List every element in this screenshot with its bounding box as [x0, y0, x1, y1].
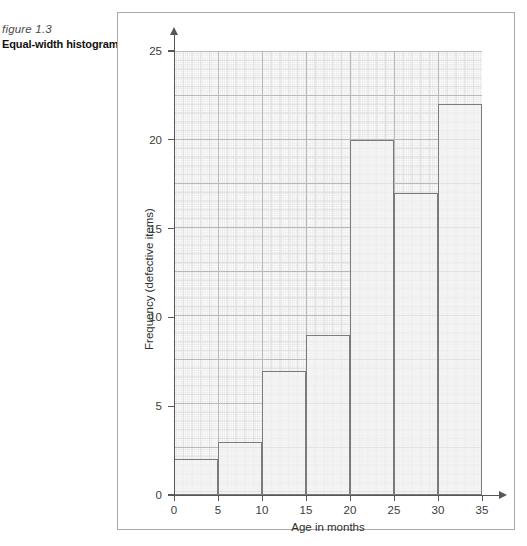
y-axis-tick-label: 25 — [149, 45, 162, 57]
x-axis-tick — [218, 495, 219, 501]
y-axis-tick — [168, 494, 174, 495]
y-axis-tick-label: 20 — [149, 134, 162, 146]
histogram-bar — [306, 335, 350, 495]
y-axis-tick-label: 0 — [156, 489, 162, 501]
y-axis-tick — [168, 317, 174, 318]
y-axis-tick — [168, 50, 174, 51]
y-axis-tick — [168, 406, 174, 407]
x-axis-title: Age in months — [174, 521, 482, 533]
y-axis-tick — [168, 228, 174, 229]
y-axis-title: Frequency (defective items) — [143, 154, 155, 404]
histogram-bar — [350, 140, 394, 495]
x-axis-tick-label: 35 — [476, 504, 489, 516]
x-axis-tick — [394, 495, 395, 501]
x-axis-tick-label: 10 — [256, 504, 269, 516]
x-axis-tick-label: 30 — [432, 504, 445, 516]
x-axis-tick — [262, 495, 263, 501]
x-axis-tick — [438, 495, 439, 501]
x-axis-tick-label: 20 — [344, 504, 357, 516]
x-axis-line — [174, 495, 500, 496]
x-axis-tick-label: 5 — [215, 504, 221, 516]
figure-frame: 05101520253035 0510152025 Age in months … — [117, 12, 515, 530]
x-axis-tick — [482, 495, 483, 501]
figure-number: figure 1.3 — [2, 22, 112, 37]
x-axis-tick — [350, 495, 351, 501]
figure-caption: figure 1.3 Equal-width histogram — [2, 22, 112, 52]
x-axis-tick-label: 0 — [171, 504, 177, 516]
x-axis-arrow-icon — [499, 491, 507, 499]
y-axis-line — [174, 35, 175, 496]
x-axis-tick-label: 15 — [300, 504, 313, 516]
plot-area — [174, 51, 482, 495]
y-axis-tick-label: 5 — [156, 400, 162, 412]
x-axis-tick-label: 25 — [388, 504, 401, 516]
y-axis-arrow-icon — [170, 27, 178, 35]
x-axis-tick — [174, 495, 175, 501]
histogram-bar — [174, 459, 218, 495]
histogram-bar — [262, 371, 306, 495]
histogram-bars — [174, 51, 482, 495]
histogram-bar — [438, 104, 482, 495]
x-axis-tick — [306, 495, 307, 501]
histogram-bar — [218, 442, 262, 495]
y-axis-tick — [168, 139, 174, 140]
histogram-bar — [394, 193, 438, 495]
figure-title: Equal-width histogram — [2, 37, 112, 52]
